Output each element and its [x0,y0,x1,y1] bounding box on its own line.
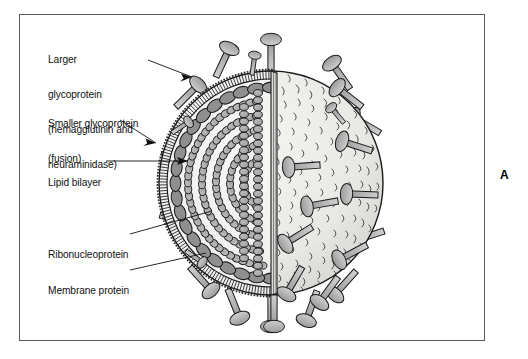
label-line: Membrane protein [48,285,129,297]
spike-bottom-centre [264,295,285,333]
label-lipid-bilayer: Lipid bilayer [48,154,101,212]
label-line: Lipid bilayer [48,177,101,189]
leader-larger-glycoprotein [148,60,192,77]
label-line: Larger [48,54,133,66]
panel-letter: A [500,168,509,182]
figure-canvas: Larger glycoprotein (hemagglutinin and n… [0,0,528,359]
label-membrane-protein: Membrane protein [48,262,129,320]
label-line: Ribonucleoprotein [48,249,128,261]
label-line: Smaller glycoprotein [48,118,138,130]
figure-frame: Larger glycoprotein (hemagglutinin and n… [19,14,485,341]
cut-plane [271,71,277,295]
